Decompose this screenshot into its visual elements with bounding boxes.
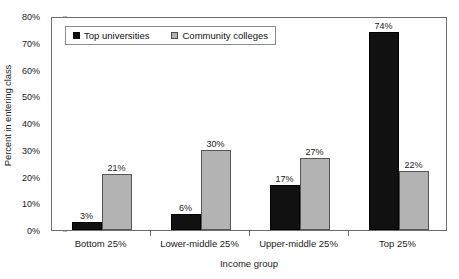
bar-value-label-2-0: 17% — [275, 174, 293, 184]
bar-1-1: 30% — [201, 150, 231, 230]
bar-value-label-1-0: 6% — [179, 203, 192, 213]
bar-value-label-0-1: 21% — [107, 163, 125, 173]
y-tick-label-6: 60% — [22, 66, 40, 76]
bar-2-1: 27% — [300, 158, 330, 230]
bar-value-label-3-1: 22% — [404, 160, 422, 170]
bar-value-label-3-0: 74% — [374, 21, 392, 31]
y-tick-label-3: 30% — [22, 146, 40, 156]
x-axis-tick-labels: Bottom 25%Lower-middle 25%Upper-middle 2… — [51, 238, 447, 254]
y-tick-label-0: 0% — [27, 226, 40, 236]
y-axis-title-text: Percent in entering class — [3, 65, 14, 167]
x-tick-label-1: Lower-middle 25% — [160, 238, 239, 249]
bar-0-0: 3% — [72, 222, 102, 230]
bar-value-label-1-1: 30% — [206, 139, 224, 149]
x-separator-tick-2 — [348, 231, 349, 236]
x-axis-title: Income group — [51, 258, 447, 269]
y-tick-label-2: 20% — [22, 173, 40, 183]
bar-2-0: 17% — [270, 185, 300, 230]
y-tick-label-1: 10% — [22, 199, 40, 209]
legend-item-0: Top universities — [73, 30, 149, 41]
legend-swatch-icon-0 — [73, 32, 80, 39]
x-tick-label-0: Bottom 25% — [75, 238, 127, 249]
y-axis-tick-labels: 0%10%20%30%40%50%60%70%80% — [16, 17, 44, 231]
y-tick-label-4: 40% — [22, 119, 40, 129]
x-separator-tick-0 — [150, 231, 151, 236]
y-tick-label-8: 80% — [22, 12, 40, 22]
y-tick-label-5: 50% — [22, 92, 40, 102]
bar-1-0: 6% — [171, 214, 201, 230]
y-axis-title: Percent in entering class — [0, 0, 16, 231]
plot-area: 3%21%6%30%17%27%74%22% — [51, 17, 447, 231]
x-separator-tick-1 — [249, 231, 250, 236]
legend-swatch-icon-1 — [171, 32, 178, 39]
bar-3-1: 22% — [399, 171, 429, 230]
legend-label-1: Community colleges — [182, 30, 268, 41]
legend-item-1: Community colleges — [171, 30, 268, 41]
y-tick-label-7: 70% — [22, 39, 40, 49]
x-tick-label-2: Upper-middle 25% — [259, 238, 338, 249]
bar-chart: Percent in entering class 0%10%20%30%40%… — [0, 0, 459, 279]
bar-0-1: 21% — [102, 174, 132, 230]
legend-label-0: Top universities — [84, 30, 149, 41]
bar-value-label-0-0: 3% — [80, 211, 93, 221]
x-tick-label-3: Top 25% — [379, 238, 416, 249]
bar-value-label-2-1: 27% — [305, 147, 323, 157]
bar-3-0: 74% — [369, 32, 399, 230]
chart-legend: Top universities Community colleges — [65, 26, 276, 45]
